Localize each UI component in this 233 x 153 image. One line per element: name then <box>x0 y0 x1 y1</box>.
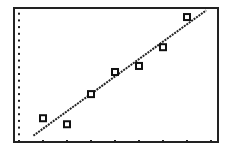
data-point-square-icon <box>40 115 46 121</box>
y-tick-dot <box>18 80 20 82</box>
y-tick-dot <box>18 127 20 129</box>
regression-line <box>33 10 206 135</box>
x-tick-dot <box>210 140 212 142</box>
y-tick-dot <box>18 19 20 21</box>
y-tick-dot <box>18 66 20 68</box>
y-tick-dot <box>18 13 20 15</box>
data-point-square-icon <box>136 63 142 69</box>
y-tick-dot <box>18 46 20 48</box>
x-tick-dot <box>42 140 44 142</box>
x-tick-dot <box>66 140 68 142</box>
x-tick-dot <box>162 140 164 142</box>
data-points <box>40 14 190 127</box>
data-point-square-icon <box>64 121 70 127</box>
y-axis-ticks <box>18 13 20 142</box>
x-tick-dot <box>18 140 20 142</box>
scatter-plot <box>0 0 233 153</box>
y-tick-dot <box>18 133 20 135</box>
y-tick-dot <box>18 40 20 42</box>
y-tick-dot <box>18 93 20 95</box>
x-tick-dot <box>138 140 140 142</box>
data-point-square-icon <box>112 69 118 75</box>
y-tick-dot <box>18 26 20 28</box>
data-point-square-icon <box>88 91 94 97</box>
data-point-square-icon <box>184 14 190 20</box>
y-tick-dot <box>18 33 20 35</box>
x-tick-dot <box>114 140 116 142</box>
x-tick-dot <box>186 140 188 142</box>
data-point-square-icon <box>160 44 166 50</box>
y-tick-dot <box>18 86 20 88</box>
x-tick-dot <box>90 140 92 142</box>
y-tick-dot <box>18 113 20 115</box>
y-tick-dot <box>18 107 20 109</box>
y-tick-dot <box>18 120 20 122</box>
y-tick-dot <box>18 60 20 62</box>
y-tick-dot <box>18 53 20 55</box>
y-tick-dot <box>18 73 20 75</box>
y-tick-dot <box>18 100 20 102</box>
